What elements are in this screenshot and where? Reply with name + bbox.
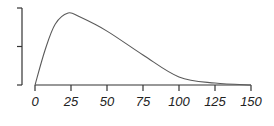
x-tick-label: 50: [100, 94, 115, 109]
x-tick-label: 0: [31, 94, 39, 109]
x-tick-label: 125: [204, 94, 226, 109]
x-tick-label: 100: [168, 94, 190, 109]
x-axis: 0255075100125150: [31, 85, 262, 109]
x-tick-label: 25: [63, 94, 79, 109]
x-tick-label: 75: [136, 94, 151, 109]
x-tick-label: 150: [240, 94, 262, 109]
density-curve: [35, 13, 251, 85]
density-chart: 0255075100125150: [0, 0, 274, 126]
y-axis: [17, 8, 22, 85]
